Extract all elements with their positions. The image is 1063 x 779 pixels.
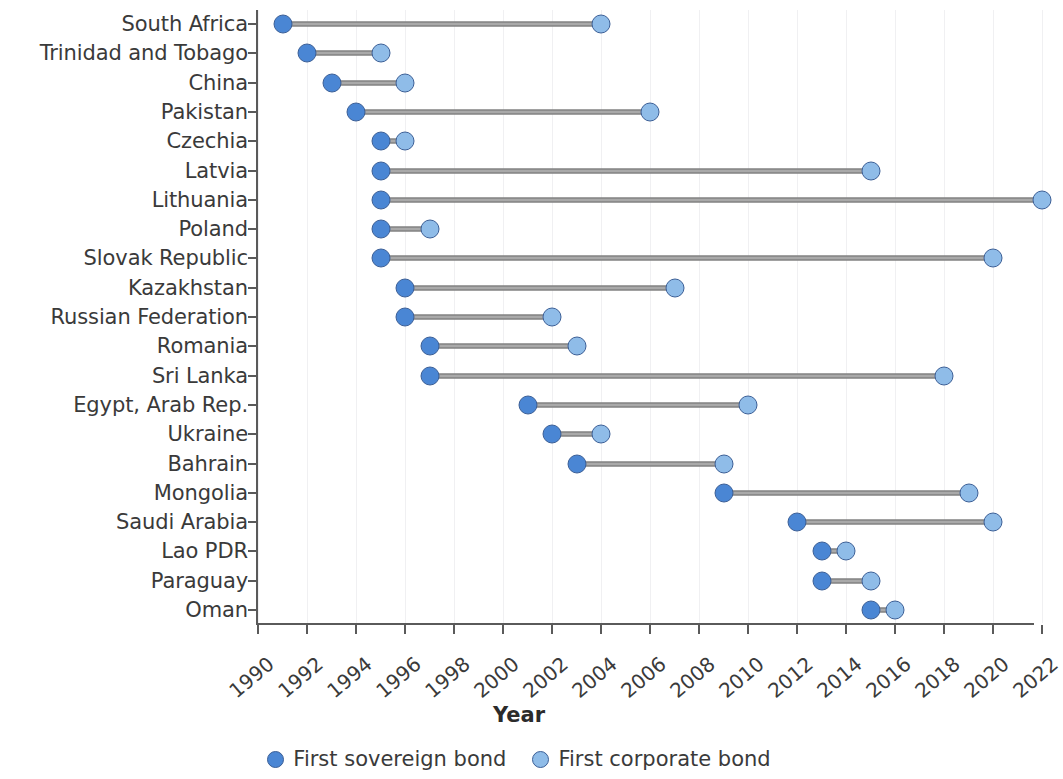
y-axis-label: Saudi Arabia [116,510,248,534]
x-axis-tick-label: 2016 [862,652,916,703]
y-tick-6 [248,199,256,201]
sovereign-bond-dot[interactable] [347,102,366,121]
gridline-1992 [307,10,308,623]
corporate-bond-dot[interactable] [567,337,586,356]
gridline-2010 [748,10,749,623]
y-tick-9 [248,287,256,289]
corporate-bond-dot[interactable] [1033,190,1052,209]
corporate-bond-dot[interactable] [396,132,415,151]
y-tick-13 [248,404,256,406]
corporate-bond-dot[interactable] [396,73,415,92]
sovereign-bond-dot[interactable] [371,190,390,209]
sovereign-bond-dot[interactable] [371,161,390,180]
sovereign-bond-dot[interactable] [396,278,415,297]
gridline-2004 [601,10,602,623]
sovereign-bond-dot[interactable] [788,513,807,532]
corporate-bond-dot[interactable] [371,44,390,63]
range-connector [405,285,675,290]
y-tick-2 [248,82,256,84]
y-tick-0 [248,23,256,25]
sovereign-bond-dot[interactable] [371,132,390,151]
y-tick-3 [248,111,256,113]
corporate-bond-dot[interactable] [543,308,562,327]
range-connector [797,520,993,525]
corporate-bond-dot[interactable] [665,278,684,297]
range-connector [381,168,871,173]
sovereign-bond-dot[interactable] [298,44,317,63]
y-axis-label: Lithuania [152,188,248,212]
x-axis-tick-label: 2018 [911,652,965,703]
corporate-bond-dot[interactable] [959,483,978,502]
legend-item-corporate[interactable]: First corporate bond [532,747,770,771]
corporate-bond-dot[interactable] [420,220,439,239]
y-axis-label: Slovak Republic [84,246,248,270]
gridline-1990 [258,10,259,623]
corporate-bond-dot[interactable] [592,15,611,34]
y-tick-14 [248,433,256,435]
x-tick-1992 [306,625,308,634]
corporate-bond-dot[interactable] [641,102,660,121]
sovereign-bond-dot[interactable] [543,425,562,444]
gridline-2014 [846,10,847,623]
x-tick-2014 [845,625,847,634]
corporate-bond-dot[interactable] [886,601,905,620]
x-axis-tick-label: 2014 [813,652,867,703]
sovereign-dot-icon [267,751,284,768]
corporate-bond-dot[interactable] [837,542,856,561]
y-tick-18 [248,550,256,552]
y-axis-label: Romania [157,334,248,358]
x-tick-2004 [600,625,602,634]
y-axis-label: Sri Lanka [152,364,248,388]
x-axis-tick-label: 1990 [225,652,279,703]
sovereign-bond-dot[interactable] [420,366,439,385]
x-axis-tick-label: 2004 [568,652,622,703]
sovereign-bond-dot[interactable] [812,542,831,561]
y-axis-label: Poland [178,217,248,241]
sovereign-bond-dot[interactable] [371,249,390,268]
y-axis-label: Latvia [185,159,248,183]
sovereign-bond-dot[interactable] [861,601,880,620]
sovereign-bond-dot[interactable] [420,337,439,356]
sovereign-bond-dot[interactable] [518,395,537,414]
corporate-bond-dot[interactable] [984,513,1003,532]
x-tick-1994 [355,625,357,634]
x-axis-tick-label: 2010 [715,652,769,703]
sovereign-bond-dot[interactable] [371,220,390,239]
x-tick-2010 [747,625,749,634]
y-axis-label: Bahrain [167,452,248,476]
range-connector [405,315,552,320]
sovereign-bond-dot[interactable] [322,73,341,92]
sovereign-bond-dot[interactable] [714,483,733,502]
sovereign-bond-dot[interactable] [396,308,415,327]
corporate-bond-dot[interactable] [714,454,733,473]
corporate-bond-dot[interactable] [739,395,758,414]
chart-legend: First sovereign bond First corporate bon… [0,747,1038,771]
y-axis-label: Kazakhstan [128,276,248,300]
x-axis-tick-label: 2000 [470,652,524,703]
x-tick-2002 [551,625,553,634]
sovereign-bond-dot[interactable] [812,571,831,590]
y-axis-label: Czechia [167,129,248,153]
x-tick-2006 [649,625,651,634]
sovereign-bond-dot[interactable] [273,15,292,34]
x-tick-2012 [796,625,798,634]
sovereign-bond-dot[interactable] [567,454,586,473]
range-connector [381,197,1043,202]
x-axis-tick-label: 2006 [617,652,671,703]
range-connector [528,402,749,407]
y-axis-spine [256,10,258,623]
x-axis-tick-label: 2008 [666,652,720,703]
x-tick-2000 [502,625,504,634]
corporate-bond-dot[interactable] [592,425,611,444]
corporate-bond-dot[interactable] [984,249,1003,268]
range-connector [332,80,406,85]
legend-label-corporate: First corporate bond [558,747,770,771]
x-axis-tick-label: 1992 [274,652,328,703]
corporate-bond-dot[interactable] [935,366,954,385]
corporate-bond-dot[interactable] [861,571,880,590]
x-tick-1998 [453,625,455,634]
corporate-bond-dot[interactable] [861,161,880,180]
legend-item-sovereign[interactable]: First sovereign bond [267,747,506,771]
y-tick-5 [248,170,256,172]
